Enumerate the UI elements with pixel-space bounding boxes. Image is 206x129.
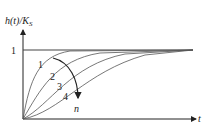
y-axis-label: h(t)/KS: [5, 15, 33, 28]
x-axis-label: t: [198, 113, 201, 124]
curve-3-label: 3: [57, 81, 62, 92]
curve-1-label: 1: [38, 59, 43, 70]
step-response-chart: h(t)/KS 1 t 1 2 3 4 n: [0, 0, 206, 129]
curve-4-label: 4: [63, 91, 68, 102]
curve-2-label: 2: [50, 71, 55, 82]
curve-4: [23, 50, 193, 119]
n-label: n: [74, 103, 79, 114]
y-tick-1: 1: [11, 45, 16, 56]
